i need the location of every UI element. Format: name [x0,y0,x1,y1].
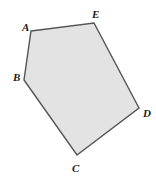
vertex-label-b: B [12,71,20,83]
geometry-figure: A E D C B [0,0,156,179]
vertex-label-d: D [142,107,151,119]
vertex-label-a: A [21,21,29,33]
pentagon-shape [24,23,139,155]
pentagon-diagram-svg: A E D C B [0,0,156,179]
vertex-label-e: E [91,8,99,20]
vertex-label-c: C [72,162,80,174]
